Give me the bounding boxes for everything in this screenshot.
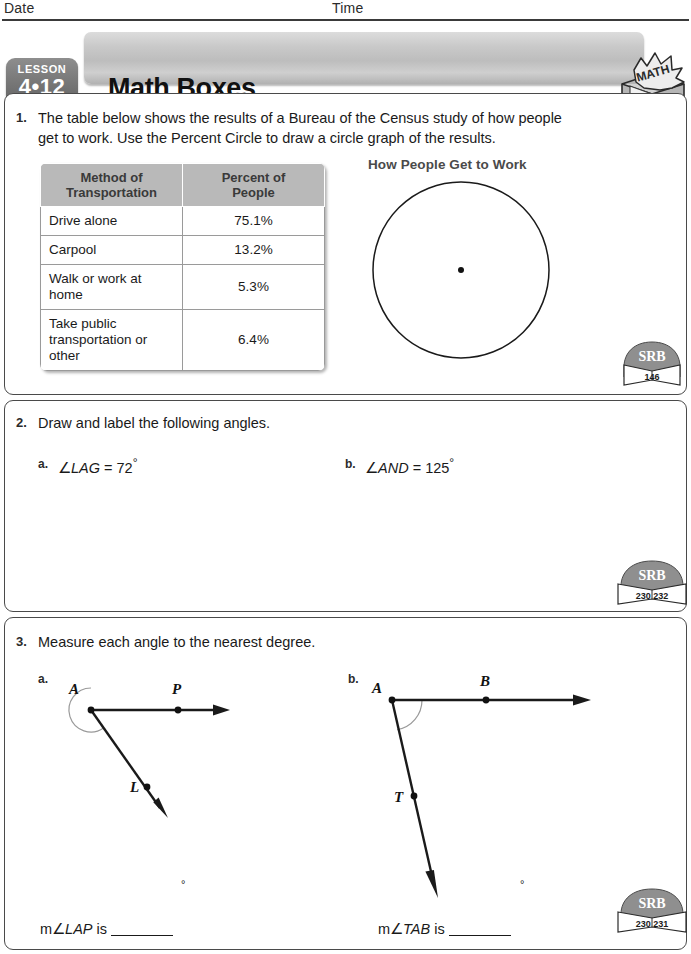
ray-ap-arrowhead bbox=[213, 705, 230, 716]
answer-line-3b: m∠TAB is bbox=[378, 921, 511, 937]
srb-pages: 146 bbox=[644, 372, 659, 382]
problem-1-text-line2: get to work. Use the Percent Circle to d… bbox=[38, 128, 648, 148]
point-label-a: A bbox=[371, 680, 382, 696]
answer-blank-3b[interactable] bbox=[449, 935, 511, 936]
problem-2a-expression: ∠LAG = 72° bbox=[58, 453, 138, 478]
point-l-dot bbox=[144, 784, 151, 791]
problem-3b-letter: b. bbox=[348, 672, 359, 686]
ray-ab-arrowhead bbox=[573, 695, 591, 706]
table-row: Drive alone 75.1% bbox=[41, 207, 325, 236]
angle-diagram-3a: A P L bbox=[50, 668, 300, 818]
point-b-dot bbox=[483, 697, 490, 704]
angle-diagram-3b: A B T bbox=[370, 668, 620, 898]
srb-label: SRB bbox=[638, 568, 665, 583]
ray-al bbox=[91, 710, 160, 808]
point-label-a: A bbox=[68, 681, 79, 697]
angle-name-2b: AND bbox=[378, 460, 409, 476]
cell-method: Carpool bbox=[41, 236, 183, 265]
point-a-dot bbox=[389, 697, 396, 704]
measure-prefix-3b: m∠ bbox=[378, 921, 403, 937]
measure-suffix-3a: is bbox=[93, 921, 108, 937]
ray-al-arrowhead bbox=[153, 798, 168, 819]
table-row: Carpool 13.2% bbox=[41, 236, 325, 265]
ray-at bbox=[392, 700, 432, 876]
problem-2-number: 2. bbox=[16, 415, 27, 430]
point-t-dot bbox=[411, 793, 418, 800]
problem-3a-letter: a. bbox=[38, 672, 48, 686]
srb-pages: 230 232 bbox=[636, 591, 669, 601]
srb-reference-3: SRB 230 231 bbox=[612, 888, 676, 934]
date-label: Date bbox=[4, 0, 34, 16]
table-row: Take public transportation or other 6.4% bbox=[41, 310, 325, 371]
time-label: Time bbox=[332, 0, 363, 16]
table-header-row: Method of Transportation Percent of Peop… bbox=[41, 164, 325, 207]
problem-2-text-line1: Draw and label the following angles. bbox=[38, 413, 638, 433]
answer-line-3a: m∠LAP is bbox=[40, 921, 173, 937]
point-label-p: P bbox=[172, 681, 182, 697]
cell-percent: 6.4% bbox=[183, 310, 325, 371]
problem-3-text-line1: Measure each angle to the nearest degree… bbox=[38, 632, 638, 652]
srb-reference-1: SRB 146 bbox=[620, 341, 684, 387]
angle-value-2a: = 72 bbox=[100, 460, 133, 476]
point-a-dot bbox=[88, 707, 95, 714]
header-divider bbox=[2, 19, 689, 21]
cell-percent: 75.1% bbox=[183, 207, 325, 236]
degree-symbol-2b: ° bbox=[449, 456, 454, 470]
problem-1-number: 1. bbox=[16, 110, 27, 125]
problem-2b-letter: b. bbox=[345, 457, 356, 471]
angle-symbol-2b: ∠ bbox=[365, 460, 378, 476]
degree-symbol-2a: ° bbox=[133, 456, 138, 470]
column-header-method: Method of Transportation bbox=[41, 164, 183, 207]
point-p-dot bbox=[175, 707, 182, 714]
angle-symbol-2a: ∠ bbox=[58, 460, 71, 476]
cell-method: Take public transportation or other bbox=[41, 310, 183, 371]
circle-graph-blank bbox=[366, 178, 556, 368]
title-banner: LESSON 4•12 Math Boxes MATH bbox=[2, 30, 689, 86]
circle-graph-title: How People Get to Work bbox=[368, 157, 527, 172]
srb-reference-2: SRB 230 232 bbox=[612, 560, 676, 606]
point-label-b: B bbox=[479, 673, 490, 689]
problem-2a-letter: a. bbox=[38, 457, 48, 471]
ray-at-arrowhead bbox=[425, 870, 438, 898]
cell-method: Walk or work at home bbox=[41, 265, 183, 310]
angle-value-2b: = 125 bbox=[409, 460, 450, 476]
angle-arc bbox=[397, 700, 422, 730]
column-header-percent: Percent of People bbox=[183, 164, 325, 207]
angle-name-2a: LAG bbox=[71, 460, 100, 476]
srb-label: SRB bbox=[638, 896, 665, 911]
census-data-table: Method of Transportation Percent of Peop… bbox=[40, 163, 325, 371]
problem-3-number: 3. bbox=[16, 634, 27, 649]
cell-method: Drive alone bbox=[41, 207, 183, 236]
srb-label: SRB bbox=[638, 349, 665, 364]
cell-percent: 13.2% bbox=[183, 236, 325, 265]
graph-center-dot bbox=[458, 267, 464, 273]
table-row: Walk or work at home 5.3% bbox=[41, 265, 325, 310]
angle-name-3b: TAB bbox=[403, 921, 430, 937]
cell-percent: 5.3% bbox=[183, 265, 325, 310]
degree-symbol-3b: ° bbox=[520, 878, 524, 890]
point-label-l: L bbox=[129, 779, 139, 795]
angle-name-3a: LAP bbox=[65, 921, 92, 937]
degree-symbol-3a: ° bbox=[181, 878, 185, 890]
page-header: Date Time bbox=[0, 0, 691, 22]
answer-blank-3a[interactable] bbox=[111, 935, 173, 936]
measure-prefix-3a: m∠ bbox=[40, 921, 65, 937]
problem-1-text-line1: The table below shows the results of a B… bbox=[38, 108, 648, 128]
measure-suffix-3b: is bbox=[430, 921, 445, 937]
srb-pages: 230 231 bbox=[636, 919, 669, 929]
problem-2b-expression: ∠AND = 125° bbox=[365, 453, 454, 478]
point-label-t: T bbox=[394, 789, 404, 805]
